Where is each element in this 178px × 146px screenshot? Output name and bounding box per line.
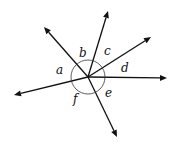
diagram-svg: a b c d e f (0, 0, 178, 146)
ray-lower-left-arrowhead (14, 90, 22, 96)
angle-label-a: a (56, 63, 63, 77)
ray-up-arrowhead (103, 11, 109, 19)
angle-label-d: d (121, 61, 129, 75)
ray-upper-right (88, 41, 145, 77)
ray-upper-right-arrowhead (143, 37, 151, 43)
angle-diagram: a b c d e f (0, 0, 178, 146)
ray-right (88, 77, 160, 78)
angle-label-f: f (72, 92, 80, 106)
angle-label-b: b (79, 46, 87, 60)
ray-right-arrowhead (160, 75, 167, 81)
angle-label-c: c (104, 44, 111, 58)
angle-label-e: e (105, 86, 112, 100)
